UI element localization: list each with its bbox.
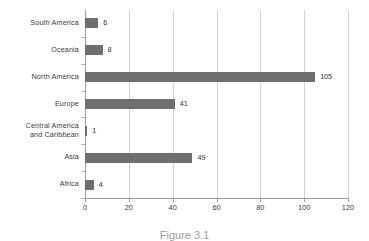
bar <box>85 180 94 190</box>
x-tick-mark-100 <box>304 198 305 202</box>
chart-row: Europe41 <box>0 91 369 118</box>
category-label: South America <box>0 19 79 28</box>
bar <box>85 126 87 136</box>
x-tick-label-40: 40 <box>158 203 188 212</box>
chart-row: Oceania8 <box>0 37 369 64</box>
bar-value-label: 6 <box>103 18 107 28</box>
bar-value-label: 49 <box>197 153 205 163</box>
bar <box>85 99 175 109</box>
bar <box>85 153 192 163</box>
figure-bar-chart: Figure 3.1 020406080100120South America6… <box>0 0 369 241</box>
category-label: Africa <box>0 180 79 189</box>
category-label: Central Americaand Caribbean <box>0 122 79 139</box>
bar-value-label: 8 <box>108 45 112 55</box>
category-label: Oceania <box>0 46 79 55</box>
chart-row: Africa4 <box>0 171 369 198</box>
chart-row: North America105 <box>0 64 369 91</box>
bar-value-label: 41 <box>180 99 188 109</box>
category-label: Asia <box>0 153 79 162</box>
category-label-line: Europe <box>0 100 79 109</box>
x-tick-label-100: 100 <box>289 203 319 212</box>
figure-caption: Figure 3.1 <box>0 229 369 241</box>
category-label-line: South America <box>0 19 79 28</box>
category-label-line: and Caribbean <box>0 131 79 140</box>
bar-value-label: 4 <box>99 180 103 190</box>
x-tick-label-0: 0 <box>70 203 100 212</box>
bar-value-label: 105 <box>320 72 332 82</box>
x-tick-mark-0 <box>85 198 86 202</box>
x-tick-mark-60 <box>217 198 218 202</box>
category-label: Europe <box>0 100 79 109</box>
bar <box>85 72 315 82</box>
x-tick-label-80: 80 <box>245 203 275 212</box>
bar <box>85 18 98 28</box>
chart-row: South America6 <box>0 10 369 37</box>
chart-row: Asia49 <box>0 144 369 171</box>
x-tick-mark-20 <box>129 198 130 202</box>
x-tick-label-120: 120 <box>333 203 363 212</box>
category-label-line: Oceania <box>0 46 79 55</box>
category-label-line: Asia <box>0 153 79 162</box>
bar <box>85 45 103 55</box>
x-tick-label-20: 20 <box>114 203 144 212</box>
category-label-line: North America <box>0 73 79 82</box>
x-tick-label-60: 60 <box>202 203 232 212</box>
x-tick-mark-40 <box>173 198 174 202</box>
x-tick-mark-80 <box>260 198 261 202</box>
y-tick-mark <box>81 198 85 199</box>
category-label-line: Africa <box>0 180 79 189</box>
x-tick-mark-120 <box>348 198 349 202</box>
category-label: North America <box>0 73 79 82</box>
bar-value-label: 1 <box>92 126 96 136</box>
chart-row: Central Americaand Caribbean1 <box>0 117 369 144</box>
